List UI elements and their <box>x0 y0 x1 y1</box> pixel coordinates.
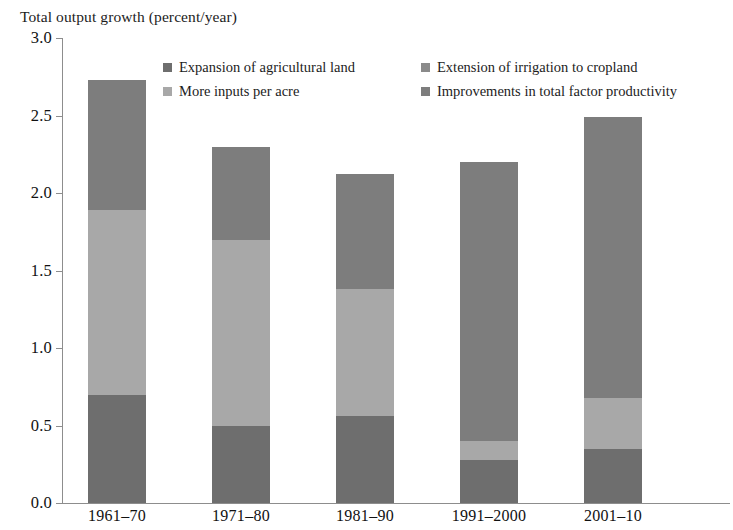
legend-swatch-icon <box>163 63 172 72</box>
bar-segment <box>212 426 270 504</box>
bar-segment <box>460 162 518 441</box>
legend-row: More inputs per acre Improvements in tot… <box>163 82 725 100</box>
y-axis-tick-mark <box>56 193 63 194</box>
bar-1961–70[interactable] <box>88 80 146 503</box>
bar-segment <box>336 289 394 416</box>
legend-item-more-inputs-per-acre[interactable]: More inputs per acre <box>163 82 421 100</box>
legend-label: Improvements in total factor productivit… <box>437 82 677 100</box>
x-axis-label-1981–90: 1981–90 <box>305 507 425 525</box>
bar-segment <box>584 117 642 398</box>
y-axis-tick-label: 0.5 <box>8 416 52 436</box>
bar-segment <box>212 240 270 426</box>
bar-segment <box>336 174 394 289</box>
legend-label: Expansion of agricultural land <box>179 58 355 76</box>
bar-segment <box>88 395 146 504</box>
y-axis-tick-mark <box>56 426 63 427</box>
x-axis-label-1961–70: 1961–70 <box>57 507 177 525</box>
y-axis-tick-label: 2.0 <box>8 183 52 203</box>
legend-row: Expansion of agricultural land Extension… <box>163 58 725 76</box>
chart-legend: Expansion of agricultural land Extension… <box>163 58 725 106</box>
y-axis-tick-mark <box>56 503 63 504</box>
y-axis-tick-mark <box>56 271 63 272</box>
x-axis-line <box>62 503 730 504</box>
bar-segment <box>584 398 642 449</box>
x-axis-label-1971–80: 1971–80 <box>181 507 301 525</box>
legend-item-improvements-in-total-factor-productivity[interactable]: Improvements in total factor productivit… <box>421 82 721 100</box>
y-axis-tick-mark <box>56 348 63 349</box>
bar-1991–2000[interactable] <box>460 162 518 503</box>
bar-segment <box>584 449 642 503</box>
bar-segment <box>88 210 146 394</box>
legend-item-extension-of-irrigation-to-cropland[interactable]: Extension of irrigation to cropland <box>421 58 721 76</box>
y-axis-tick-label: 3.0 <box>8 28 52 48</box>
bar-segment <box>88 80 146 210</box>
legend-item-expansion-of-agricultural-land[interactable]: Expansion of agricultural land <box>163 58 421 76</box>
x-axis-label-1991–2000: 1991–2000 <box>429 507 549 525</box>
x-axis-label-2001–10: 2001–10 <box>553 507 673 525</box>
bar-1981–90[interactable] <box>336 174 394 503</box>
bar-segment <box>460 441 518 460</box>
legend-swatch-icon <box>421 87 430 96</box>
bar-1971–80[interactable] <box>212 147 270 504</box>
bar-segment <box>460 460 518 503</box>
bar-segment <box>212 147 270 240</box>
y-axis-tick-label: 1.0 <box>8 338 52 358</box>
legend-swatch-icon <box>163 87 172 96</box>
legend-swatch-icon <box>421 63 430 72</box>
bar-segment <box>336 416 394 503</box>
y-axis-tick-mark <box>56 38 63 39</box>
legend-label: More inputs per acre <box>179 82 299 100</box>
y-axis-tick-label: 0.0 <box>8 493 52 513</box>
legend-label: Extension of irrigation to cropland <box>437 58 638 76</box>
y-axis-tick-mark <box>56 116 63 117</box>
y-axis-tick-label: 2.5 <box>8 106 52 126</box>
y-axis-tick-label: 1.5 <box>8 261 52 281</box>
bar-2001–10[interactable] <box>584 117 642 503</box>
